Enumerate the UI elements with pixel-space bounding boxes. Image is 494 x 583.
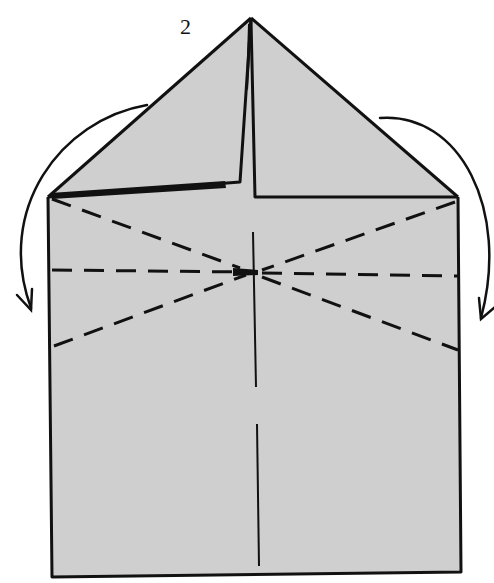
right-arrow-head [479,298,494,319]
left-arrow-head [17,289,32,310]
step-number: 2 [180,14,191,40]
fold-diagram-canvas [0,0,494,583]
